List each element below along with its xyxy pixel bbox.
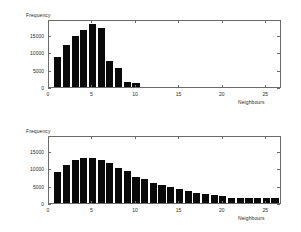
y-tick-label: 15000 (18, 149, 44, 155)
histogram-bar (63, 45, 70, 87)
x-tick-label: 10 (132, 91, 138, 97)
x-tick-mark (48, 85, 49, 88)
x-axis-label-top: Neighbours (238, 99, 265, 105)
histogram-bar (63, 165, 70, 203)
x-tick-mark-top (91, 136, 92, 139)
y-tick-mark-right (277, 88, 280, 89)
x-tick-mark (265, 85, 266, 88)
histogram-bar (72, 160, 79, 203)
chart-panel-bottom: Frequency Neighbours 050001000015000 051… (0, 116, 301, 232)
chart-panel-top: Frequency Neighbours 050001000015000 051… (0, 0, 301, 116)
y-tick-mark-right (277, 152, 280, 153)
y-tick-mark-right (277, 204, 280, 205)
x-tick-mark-top (265, 20, 266, 23)
y-tick-mark-right (277, 187, 280, 188)
histogram-bar (150, 183, 157, 203)
x-tick-mark (222, 85, 223, 88)
x-tick-mark (265, 201, 266, 204)
y-axis-label-bottom: Frequency (26, 128, 51, 134)
y-tick-label: 15000 (18, 33, 44, 39)
histogram-bar (98, 28, 105, 87)
x-tick-mark (178, 85, 179, 88)
y-tick-mark-right (277, 36, 280, 37)
x-tick-mark-top (222, 136, 223, 139)
x-tick-mark-top (222, 20, 223, 23)
histogram-bar (80, 30, 87, 87)
x-tick-label: 5 (90, 207, 93, 213)
x-tick-label: 0 (47, 207, 50, 213)
histogram-bar (132, 177, 139, 204)
x-tick-mark (48, 201, 49, 204)
histogram-bar (115, 68, 122, 87)
plot-area-top (48, 20, 281, 88)
histogram-bar (271, 198, 278, 203)
histogram-bar (106, 163, 113, 203)
y-tick-mark (48, 152, 51, 153)
histogram-bar (124, 171, 131, 203)
figure-canvas: Frequency Neighbours 050001000015000 051… (0, 0, 301, 232)
histogram-bar (228, 198, 235, 203)
x-tick-mark (222, 201, 223, 204)
histogram-bar (89, 24, 96, 87)
x-tick-label: 25 (263, 91, 269, 97)
y-tick-label: 0 (18, 85, 44, 91)
x-tick-label: 20 (219, 207, 225, 213)
histogram-bar (185, 191, 192, 203)
x-tick-mark-top (135, 136, 136, 139)
y-tick-mark (48, 88, 51, 89)
histogram-bar (132, 83, 139, 87)
histogram-bar (202, 194, 209, 203)
histogram-bar (54, 57, 61, 87)
histogram-bar (54, 172, 61, 203)
y-tick-mark-right (277, 71, 280, 72)
x-tick-label: 15 (176, 207, 182, 213)
x-tick-mark-top (48, 20, 49, 23)
y-tick-mark (48, 36, 51, 37)
x-tick-mark (91, 85, 92, 88)
y-tick-label: 5000 (18, 184, 44, 190)
y-tick-mark-right (277, 53, 280, 54)
x-tick-mark (91, 201, 92, 204)
histogram-bar (193, 193, 200, 203)
x-tick-label: 15 (176, 91, 182, 97)
histogram-bar (80, 158, 87, 203)
y-tick-mark (48, 204, 51, 205)
x-tick-mark-top (178, 20, 179, 23)
histogram-bar (141, 179, 148, 203)
histogram-bar (219, 196, 226, 203)
x-tick-label: 0 (47, 91, 50, 97)
histogram-bar (167, 187, 174, 203)
x-tick-mark-top (48, 136, 49, 139)
y-tick-mark-right (277, 169, 280, 170)
x-tick-mark-top (265, 136, 266, 139)
histogram-bar (72, 36, 79, 87)
y-tick-label: 10000 (18, 166, 44, 172)
histogram-bar (89, 158, 96, 203)
histogram-bar (245, 198, 252, 203)
histogram-bar (158, 185, 165, 203)
histogram-bar (106, 61, 113, 88)
y-tick-label: 10000 (18, 50, 44, 56)
x-tick-label: 25 (263, 207, 269, 213)
x-tick-mark (178, 201, 179, 204)
y-tick-mark (48, 187, 51, 188)
plot-area-bottom (48, 136, 281, 204)
histogram-bar (176, 189, 183, 203)
y-tick-mark (48, 71, 51, 72)
x-tick-label: 10 (132, 207, 138, 213)
x-axis-label-bottom: Neighbours (238, 215, 265, 221)
histogram-bar (237, 198, 244, 203)
y-axis-label-top: Frequency (26, 12, 51, 18)
histogram-bar (263, 198, 270, 203)
histogram-bar (98, 160, 105, 203)
x-tick-mark (135, 85, 136, 88)
histogram-bar (254, 198, 261, 203)
y-tick-label: 5000 (18, 68, 44, 74)
x-tick-label: 20 (219, 91, 225, 97)
y-tick-mark (48, 53, 51, 54)
x-tick-mark-top (178, 136, 179, 139)
y-tick-label: 0 (18, 201, 44, 207)
y-tick-mark (48, 169, 51, 170)
bar-series-bottom (49, 137, 280, 203)
histogram-bar (124, 82, 131, 87)
